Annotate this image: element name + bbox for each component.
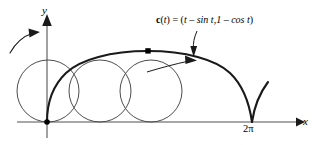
origin-dot [44,119,50,125]
rolling-circle-2 [69,60,131,122]
formula-component-y: 1 – cos t [216,14,250,25]
cycloid-curve-arch-2-start [252,82,268,122]
formula-expr-close: ) [250,14,253,25]
tick-label-2pi: 2π [243,124,254,135]
apex-dot [145,48,150,53]
cycloid-curve-arch-1 [47,51,252,122]
y-axis-label: y [42,5,47,16]
x-axis-label: x [303,116,308,127]
formula-leader-line-diagonal [147,61,189,72]
rolling-circle-3 [120,60,182,122]
cycloid-figure: y x 2π c(t) = (t – sin t,1 – cos t) [0,0,318,145]
formula-component-x: t – sin t [184,14,214,25]
rolling-direction-arrowhead [29,29,41,38]
parametric-equation-label: c(t) = (t – sin t,1 – cos t) [156,14,253,25]
